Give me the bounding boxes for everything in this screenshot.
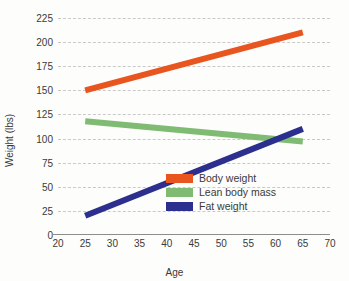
- legend-swatch: [166, 202, 193, 211]
- line-chart: Weight (lbs) 0255075100125150175200225 2…: [0, 0, 349, 281]
- legend-label: Body weight: [199, 172, 256, 184]
- y-axis-tick-label: 75: [42, 157, 58, 168]
- x-axis-tick-label: 20: [52, 238, 63, 249]
- legend-label: Lean body mass: [199, 186, 276, 198]
- y-axis-title: Weight (lbs): [2, 0, 18, 281]
- x-axis-title-text: Age: [166, 267, 184, 278]
- x-axis-tick-label: 50: [216, 238, 227, 249]
- x-axis-tick-label: 70: [324, 238, 335, 249]
- series-line: [85, 121, 303, 141]
- legend-swatch: [166, 188, 193, 197]
- y-axis-tick-label: 50: [42, 181, 58, 192]
- y-axis-tick-label: 225: [36, 13, 58, 24]
- x-axis-tick-label: 45: [188, 238, 199, 249]
- y-axis-tick-label: 175: [36, 61, 58, 72]
- legend-label: Fat weight: [199, 200, 247, 212]
- chart-legend: Body weightLean body massFat weight: [166, 172, 276, 212]
- y-axis-tick-label: 125: [36, 109, 58, 120]
- x-axis-tick-label: 35: [134, 238, 145, 249]
- x-axis-tick-label: 55: [243, 238, 254, 249]
- legend-item[interactable]: Lean body mass: [166, 186, 276, 198]
- y-axis-tick-label: 200: [36, 37, 58, 48]
- legend-item[interactable]: Fat weight: [166, 200, 276, 212]
- y-axis-title-text: Weight (lbs): [5, 114, 16, 167]
- x-axis-tick-label: 65: [297, 238, 308, 249]
- legend-item[interactable]: Body weight: [166, 172, 276, 184]
- x-axis-tick-label: 25: [80, 238, 91, 249]
- y-axis-tick-label: 25: [42, 205, 58, 216]
- x-axis-title: Age: [0, 267, 349, 278]
- x-axis-tick-label: 30: [107, 238, 118, 249]
- x-axis-tick-label: 60: [270, 238, 281, 249]
- legend-swatch: [166, 174, 193, 183]
- x-axis-tick-label: 40: [161, 238, 172, 249]
- y-axis-tick-label: 150: [36, 85, 58, 96]
- series-line: [85, 32, 303, 90]
- y-axis-tick-label: 100: [36, 133, 58, 144]
